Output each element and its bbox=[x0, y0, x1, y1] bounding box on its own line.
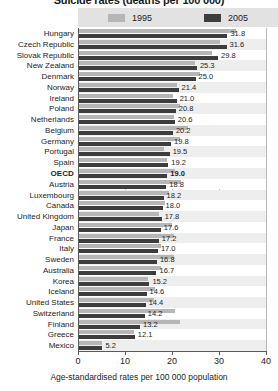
bar-value-label: 21.4 bbox=[182, 84, 197, 92]
bar-value-label: 13.2 bbox=[143, 321, 158, 329]
bar-1995 bbox=[78, 180, 181, 184]
x-axis-title: Age-standardised rates per 100 000 popul… bbox=[0, 372, 278, 382]
bar-2005 bbox=[78, 185, 166, 189]
category-label: Germany bbox=[0, 137, 74, 146]
bar-1995 bbox=[78, 147, 164, 151]
bar-1995 bbox=[78, 244, 161, 248]
category-label: Australia bbox=[0, 266, 74, 275]
bar-value-label: 19.0 bbox=[170, 170, 185, 178]
bar-2005 bbox=[78, 152, 170, 156]
bar-value-label: 16.8 bbox=[160, 256, 175, 264]
chart-row: 14.4 bbox=[78, 297, 266, 308]
bar-2005 bbox=[78, 34, 227, 38]
category-label: Italy bbox=[0, 244, 74, 253]
chart-row: 20.8 bbox=[78, 103, 266, 114]
x-tick-label: 30 bbox=[204, 356, 234, 366]
category-label: Ireland bbox=[0, 94, 74, 103]
bar-2005 bbox=[78, 325, 140, 329]
chart-row: 12.1 bbox=[78, 329, 266, 340]
category-label: Japan bbox=[0, 223, 74, 232]
legend-item-2005: 2005 bbox=[204, 13, 248, 23]
grid-line bbox=[266, 28, 267, 351]
bar-value-label: 18.0 bbox=[166, 202, 181, 210]
bar-1995 bbox=[78, 341, 102, 345]
bar-value-label: 20.8 bbox=[179, 105, 194, 113]
bar-value-label: 18.8 bbox=[169, 181, 184, 189]
chart-row: 18.8 bbox=[78, 179, 266, 190]
bar-2005 bbox=[78, 249, 158, 253]
category-label: Spain bbox=[0, 158, 74, 167]
chart-row: 20.6 bbox=[78, 114, 266, 125]
bar-2005 bbox=[78, 77, 196, 81]
bar-value-label: 29.8 bbox=[221, 52, 236, 60]
legend-label-2005: 2005 bbox=[228, 13, 248, 23]
bar-1995 bbox=[78, 266, 161, 270]
category-label: OECD bbox=[0, 169, 74, 178]
legend-swatch-2005 bbox=[204, 14, 221, 22]
bar-2005 bbox=[78, 45, 227, 49]
bar-1995 bbox=[78, 223, 172, 227]
bar-value-label: 16.7 bbox=[159, 267, 174, 275]
category-label: Iceland bbox=[0, 287, 74, 296]
chart-row: 15.2 bbox=[78, 276, 266, 287]
bar-1995 bbox=[78, 137, 180, 141]
bar-2005 bbox=[78, 109, 176, 113]
bar-2005 bbox=[78, 196, 164, 200]
category-label: United States bbox=[0, 298, 74, 307]
chart-row: 14.2 bbox=[78, 308, 266, 319]
bar-2005 bbox=[78, 99, 177, 103]
chart-row: 16.8 bbox=[78, 254, 266, 265]
bar-value-label: 20.6 bbox=[178, 116, 193, 124]
bar-2005 bbox=[78, 163, 168, 167]
bar-value-label: 25.3 bbox=[200, 62, 215, 70]
bar-2005 bbox=[78, 66, 197, 70]
bar-value-label: 17.6 bbox=[164, 224, 179, 232]
category-label: New Zealand bbox=[0, 61, 74, 70]
bar-1995 bbox=[78, 29, 236, 33]
chart-row: 21.4 bbox=[78, 82, 266, 93]
x-tick-label: 10 bbox=[110, 356, 140, 366]
bar-1995 bbox=[78, 212, 159, 216]
category-label: Netherlands bbox=[0, 115, 74, 124]
bar-1995 bbox=[78, 158, 167, 162]
chart-row: 17.2 bbox=[78, 233, 266, 244]
category-label: Norway bbox=[0, 83, 74, 92]
x-tick-label: 0 bbox=[63, 356, 93, 366]
chart-row: 31.6 bbox=[78, 39, 266, 50]
bar-1995 bbox=[78, 126, 188, 130]
x-tick bbox=[78, 351, 79, 355]
bar-2005 bbox=[78, 335, 135, 339]
bar-2005 bbox=[78, 206, 163, 210]
chart-row: 25.0 bbox=[78, 71, 266, 82]
chart-row: 14.6 bbox=[78, 286, 266, 297]
legend-label-1995: 1995 bbox=[132, 13, 152, 23]
category-label: Luxembourg bbox=[0, 191, 74, 200]
legend-item-1995: 1995 bbox=[108, 13, 152, 23]
category-label: Belgium bbox=[0, 126, 74, 135]
chart-row: 17.8 bbox=[78, 211, 266, 222]
chart-row: 25.3 bbox=[78, 60, 266, 71]
category-label: Poland bbox=[0, 104, 74, 113]
chart-row: 17.0 bbox=[78, 243, 266, 254]
category-label: Korea bbox=[0, 277, 74, 286]
bar-value-label: 17.2 bbox=[162, 235, 177, 243]
category-label: Portugal bbox=[0, 147, 74, 156]
bar-1995 bbox=[78, 277, 148, 281]
chart-legend: 1995 2005 bbox=[78, 8, 278, 27]
chart-container: Suicide rates (deaths per 100 000) 1995 … bbox=[0, 0, 278, 391]
bar-2005 bbox=[78, 217, 162, 221]
category-label: Denmark bbox=[0, 72, 74, 81]
bar-1995 bbox=[78, 115, 174, 119]
bar-value-label: 21.0 bbox=[180, 95, 195, 103]
bar-2005 bbox=[78, 271, 156, 275]
bar-1995 bbox=[78, 72, 200, 76]
category-label: France bbox=[0, 234, 74, 243]
bar-value-label: 18.2 bbox=[167, 192, 182, 200]
category-label: Switzerland bbox=[0, 309, 74, 318]
bar-1995 bbox=[78, 104, 180, 108]
chart-row: 31.8 bbox=[78, 28, 266, 39]
category-label: Finland bbox=[0, 320, 74, 329]
bar-2005 bbox=[78, 239, 159, 243]
bar-value-label: 25.0 bbox=[199, 73, 214, 81]
bar-2005 bbox=[78, 131, 173, 135]
